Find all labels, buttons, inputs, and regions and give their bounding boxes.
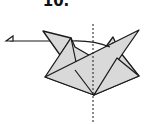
- origami-diagram: [0, 0, 145, 124]
- paper-model: [43, 30, 139, 95]
- fold-arrow-icon: [6, 36, 50, 41]
